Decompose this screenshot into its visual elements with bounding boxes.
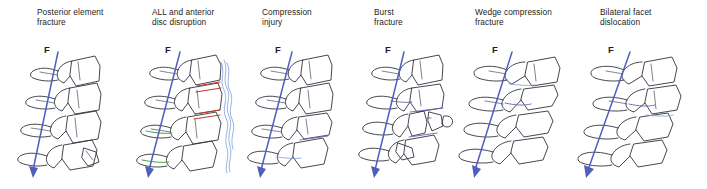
spinal-injury-mechanism-figure: Posterior element fracture ALL and anter…: [0, 0, 707, 189]
retropulsed-fragment-outline: [442, 116, 453, 127]
annotation-purple-facet-line: [629, 104, 673, 116]
annotation-blue-anterior-longitudinal-ligament: [221, 60, 234, 173]
vertebrae-line-art: [0, 0, 707, 189]
vertebrae-drawing-burst-fracture: [359, 55, 453, 165]
vertebrae-drawing-compression-injury: [248, 55, 333, 168]
force-arrow-panel-2: [145, 52, 180, 178]
vertebrae-drawing-wedge-compression-fracture: [459, 57, 560, 164]
annotation-purple-fracture-line: [391, 101, 443, 137]
vertebrae-drawing-bilateral-facet-dislocation: [578, 57, 681, 167]
vertebrae-drawing-posterior-element-fracture: [18, 56, 101, 170]
annotation-purple-wedge-collapse: [505, 84, 535, 105]
annotation-blue-endplate-compression: [276, 136, 328, 158]
force-arrow-panel-5: [472, 52, 512, 178]
vertebrae-drawing-all-and-anterior-disc-disruption: [137, 55, 234, 173]
